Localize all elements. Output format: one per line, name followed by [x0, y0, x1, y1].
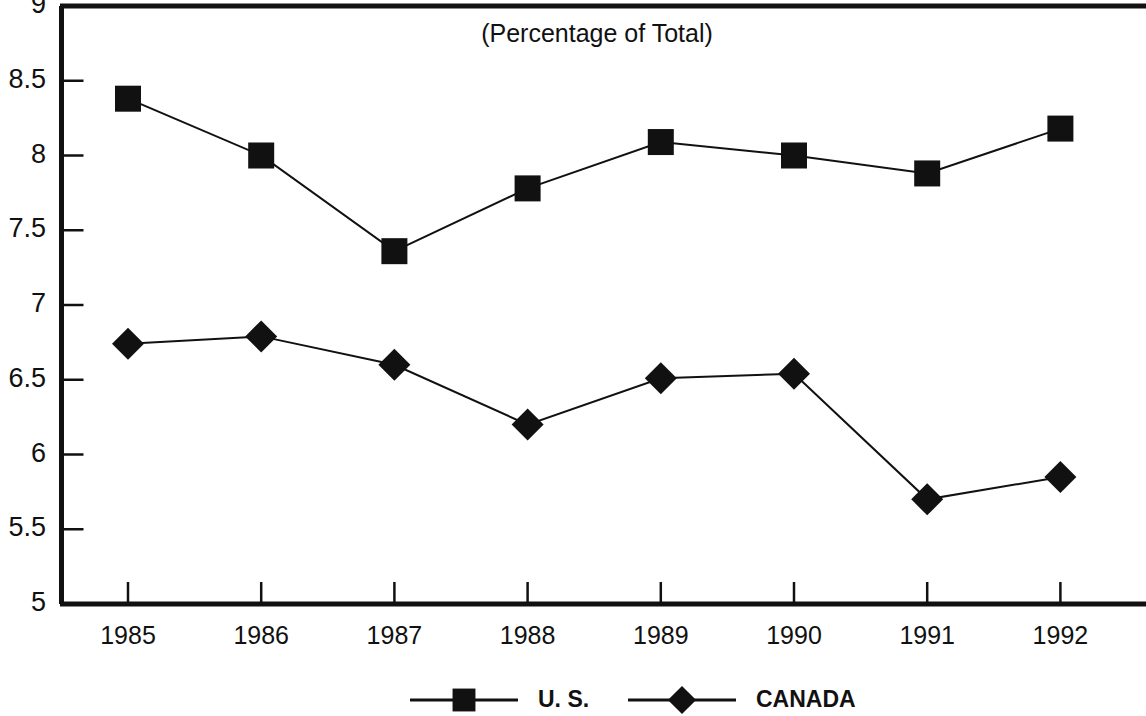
- x-axis-tick-label: 1991: [899, 621, 955, 649]
- series-marker-diamond: [645, 362, 677, 394]
- chart-axes: [60, 6, 1146, 604]
- legend-label: U. S.: [538, 686, 589, 712]
- y-axis-tick-label: 8.5: [8, 64, 46, 94]
- series-marker-square: [781, 143, 807, 169]
- y-axis-tick-label: 7: [31, 288, 46, 318]
- legend-marker-diamond: [668, 686, 696, 714]
- series-marker-square: [115, 86, 141, 112]
- x-axis-tick-label: 1990: [766, 621, 822, 649]
- y-axis-tick-label: 6.5: [8, 363, 46, 393]
- chart-series: [112, 320, 1076, 515]
- y-axis-tick-label: 5: [31, 587, 46, 617]
- series-marker-square: [381, 238, 407, 264]
- chart-legend: U. S.CANADA: [410, 686, 856, 714]
- x-axis-tick-label: 1986: [233, 621, 289, 649]
- series-marker-diamond: [512, 409, 544, 441]
- chart-title: (Percentage of Total): [481, 19, 713, 47]
- y-axis-ticks: 98.587.576.565.55: [8, 0, 83, 617]
- series-marker-square: [248, 143, 274, 169]
- chart-figure: (Percentage of Total) 98.587.576.565.55 …: [0, 0, 1146, 716]
- series-marker-diamond: [1044, 461, 1076, 493]
- legend-marker-square: [453, 689, 476, 712]
- series-marker-square: [1047, 116, 1073, 142]
- series-marker-square: [648, 129, 674, 155]
- y-axis-tick-label: 8: [31, 139, 46, 169]
- chart-title-group: (Percentage of Total): [481, 19, 713, 47]
- y-axis-tick-label: 9: [31, 0, 46, 19]
- x-axis-tick-label: 1988: [500, 621, 556, 649]
- chart-series-group: [112, 86, 1076, 516]
- x-axis-tick-label: 1992: [1033, 621, 1089, 649]
- x-axis-tick-label: 1987: [367, 621, 423, 649]
- series-marker-square: [515, 175, 541, 201]
- series-marker-diamond: [245, 320, 277, 352]
- x-axis-tick-label: 1989: [633, 621, 689, 649]
- series-marker-diamond: [112, 328, 144, 360]
- line-chart: (Percentage of Total) 98.587.576.565.55 …: [0, 0, 1146, 716]
- y-axis-tick-label: 6: [31, 438, 46, 468]
- legend-label: CANADA: [756, 686, 856, 712]
- x-axis-tick-label: 1985: [100, 621, 156, 649]
- y-axis-tick-label: 7.5: [8, 213, 46, 243]
- legend-entry: U. S.: [410, 686, 589, 712]
- legend-entry: CANADA: [628, 686, 856, 714]
- series-marker-diamond: [378, 349, 410, 381]
- series-polyline: [128, 336, 1060, 499]
- series-marker-square: [914, 160, 940, 186]
- chart-series: [115, 86, 1073, 264]
- x-axis-ticks: 19851986198719881989199019911992: [100, 582, 1088, 649]
- y-axis-tick-label: 5.5: [8, 512, 46, 542]
